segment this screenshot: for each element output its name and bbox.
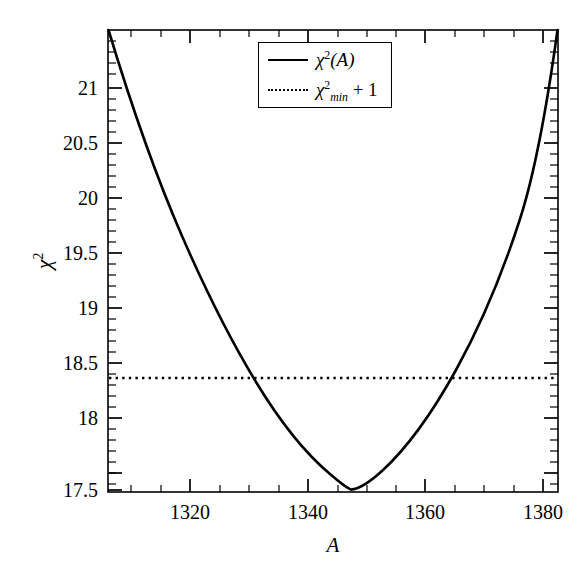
legend: χ2(A) χ2min + 1 — [258, 42, 392, 108]
legend-subscript-1: min — [330, 90, 348, 103]
legend-entry-chi2-of-a: χ2(A) — [259, 43, 391, 76]
x-tick-label-1320: 1320 — [170, 502, 210, 522]
legend-suffix-1: + 1 — [348, 79, 378, 100]
legend-label-chi2-min-plus-one: χ2min + 1 — [316, 79, 378, 101]
y-tick-label-18-5: 18.5 — [40, 353, 98, 373]
x-tick-label-1380: 1380 — [523, 502, 563, 522]
solid-line-sample-icon — [268, 53, 308, 67]
y-tick-label-18: 18 — [40, 408, 98, 428]
y-tick-label-21: 21 — [40, 78, 98, 98]
x-tick-label-1360: 1360 — [405, 502, 445, 522]
legend-entry-chi2-min-plus-one: χ2min + 1 — [259, 73, 391, 106]
x-axis-title: A — [327, 533, 340, 558]
y-tick-label-20-5: 20.5 — [40, 133, 98, 153]
y-tick-label-20: 20 — [40, 188, 98, 208]
y-axis-title-exponent: 2 — [31, 253, 46, 260]
legend-argument-0: (A) — [330, 49, 354, 70]
x-axis-title-text: A — [327, 533, 340, 557]
chi-square-parabola-figure: 21 20.5 20 19.5 19 18.5 18 17.5 1320 134… — [0, 0, 586, 574]
y-axis-title: χ2 — [31, 231, 57, 291]
x-tick-label-1340: 1340 — [288, 502, 328, 522]
dotted-line-sample-icon — [268, 83, 308, 97]
y-axis-title-base: χ — [31, 260, 56, 270]
y-tick-label-17-5: 17.5 — [40, 480, 98, 500]
y-tick-label-19: 19 — [40, 298, 98, 318]
legend-label-chi2-of-a: χ2(A) — [316, 49, 355, 71]
